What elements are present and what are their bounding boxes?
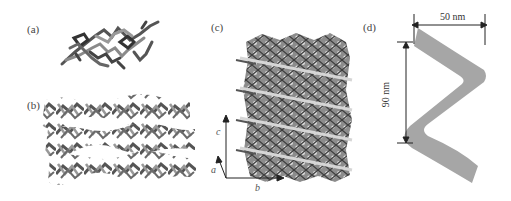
helix-ribbon [404, 28, 486, 183]
helix-pitch-label: 90 nm [380, 82, 391, 107]
panel-d-helix [0, 0, 511, 201]
helix-width-label: 50 nm [440, 11, 465, 22]
